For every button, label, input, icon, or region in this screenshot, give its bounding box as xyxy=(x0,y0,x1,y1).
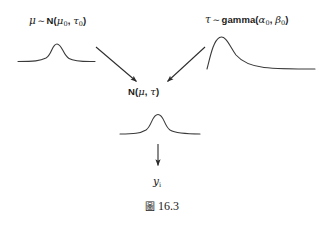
mu-prior-label: μ∼N(μ0, τ0) xyxy=(29,15,86,26)
subscript-zero-1: 0 xyxy=(265,19,269,27)
paren-close: ) xyxy=(83,15,86,26)
arrow-tau-to-likelihood xyxy=(168,47,206,82)
gamma-density-curve-tau xyxy=(207,37,315,69)
subscript-zero-2: 0 xyxy=(281,19,285,27)
arrow-mu-to-likelihood xyxy=(96,47,137,82)
bayesian-model-diagram: μ∼N(μ0, τ0) τ∼gamma(α0, β0) N(μ, τ) yi 圖… xyxy=(0,0,324,227)
tilde-operator: ∼ xyxy=(211,15,222,25)
normal-density-curve-mu xyxy=(18,44,95,62)
subscript-zero-2: 0 xyxy=(79,20,83,28)
diagram-canvas xyxy=(0,0,324,227)
figure-caption-number: 16.3 xyxy=(155,199,179,213)
normal-density-curve-likelihood xyxy=(120,115,200,135)
tilde-operator: ∼ xyxy=(36,16,47,26)
likelihood-label: N(μ, τ) xyxy=(128,87,159,97)
distribution-family-normal: N xyxy=(128,86,135,97)
distribution-family-gamma: gamma xyxy=(222,14,256,25)
subscript-zero-1: 0 xyxy=(63,20,67,28)
figure-caption-symbol: 圖 xyxy=(145,201,155,212)
subscript-i: i xyxy=(159,181,161,189)
parameter-mu: μ xyxy=(138,86,145,97)
distribution-family-normal: N xyxy=(47,15,54,26)
paren-close: ) xyxy=(285,14,288,25)
mu-symbol: μ xyxy=(29,14,36,26)
figure-caption: 圖16.3 xyxy=(0,198,324,214)
hyperparameter-tau0: τ xyxy=(73,15,79,26)
observation-label: yi xyxy=(153,172,161,188)
paren-close: ) xyxy=(156,86,159,97)
tau-prior-label: τ∼gamma(α0, β0) xyxy=(205,14,289,25)
